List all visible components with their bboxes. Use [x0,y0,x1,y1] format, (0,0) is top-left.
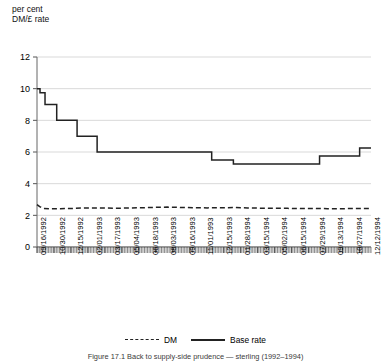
x-axis-tick-label: 10/30/1992 [59,217,67,255]
x-axis-tick-label: 03/17/1993 [114,217,122,255]
x-axis-tick-label: 05/04/1993 [133,217,141,255]
figure-caption: Figure 17.1 Back to supply-side prudence… [0,352,391,361]
x-axis-tick-label: 12/15/1992 [77,217,85,255]
data-series-layer [37,89,371,209]
legend-label: Base rate [230,335,266,345]
series-line-base-rate [37,89,371,164]
x-axis-tick-label: 02/01/1993 [96,217,104,255]
chart-legend: DMBase rate [0,333,391,347]
x-axis-tick-label: 06/18/1993 [152,217,160,255]
series-line-dm [37,205,371,209]
legend-swatch-line [125,339,159,340]
x-axis-tick-label: 10/27/1994 [356,217,364,255]
legend-swatch-dashed [125,336,159,344]
legend-label: DM [164,335,177,345]
x-axis-labels: 09/16/199210/30/199212/15/199202/01/1993… [0,252,391,332]
x-axis-tick-label: 01/28/1994 [244,217,252,255]
x-axis-tick-label: 12/12/1994 [374,217,382,255]
legend-swatch-solid [191,336,225,344]
legend-item-dm: DM [125,335,177,345]
x-axis-tick-label: 09/13/1994 [337,217,345,255]
x-axis-tick-label: 09/16/1993 [189,217,197,255]
y-axis-tick-label: 8 [25,116,30,126]
x-axis-tick-label: 05/02/1994 [281,217,289,255]
y-axis-tick-label: 12 [20,52,30,62]
y-axis-tick-label: 6 [25,147,30,157]
x-axis-tick-label: 09/16/1992 [40,217,48,255]
legend-item-base-rate: Base rate [191,335,266,345]
figure-container: per cent DM/£ rate 024681012 09/16/19921… [0,0,391,362]
x-axis-tick-label: 07/29/1994 [319,217,327,255]
y-axis-tick-label: 10 [20,84,30,94]
y-axis-tick-label: 0 [25,242,30,252]
x-axis-tick-label: 06/15/1994 [300,217,308,255]
x-axis-tick-label: 03/15/1994 [263,217,271,255]
y-axis-tick-labels: 024681012 [20,52,30,252]
y-axis-tick-label: 4 [25,179,30,189]
y-axis-tick-label: 2 [25,211,30,221]
y-axis-ticks [33,57,37,247]
legend-swatch-line [191,339,225,341]
x-axis-tick-label: 08/03/1993 [170,217,178,255]
x-axis-tick-label: 12/15/1993 [226,217,234,255]
x-axis-tick-label: 11/01/1993 [207,218,215,255]
